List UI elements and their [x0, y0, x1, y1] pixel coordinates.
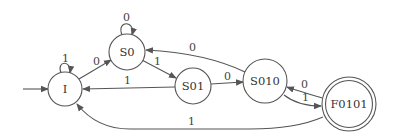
edge-F0101-I [77, 104, 323, 129]
state-label-S010: S010 [250, 74, 280, 88]
edge-S01-I [83, 87, 175, 89]
state-diagram: 1 0 0 1 1 0 0 0 1 1 I S0 S01 S010 F010 [0, 0, 393, 140]
edge-label-F0101-S010: 0 [301, 78, 308, 91]
state-F0101-accepting: F0101 [322, 77, 376, 131]
state-S010: S010 [243, 59, 287, 103]
edge-label-S0-S0: 0 [123, 11, 130, 24]
state-label-I: I [63, 82, 68, 96]
state-S0: S0 [109, 34, 145, 70]
edge-S0-S0 [121, 24, 133, 35]
edge-label-S010-F0101: 1 [302, 91, 309, 104]
state-label-S0: S0 [119, 45, 134, 59]
state-label-S01: S01 [182, 79, 205, 93]
edge-label-S01-I: 1 [124, 74, 131, 87]
edge-label-S01-S010: 0 [224, 70, 231, 83]
state-S01: S01 [175, 68, 211, 104]
state-I: I [48, 72, 82, 106]
edge-label-F0101-I: 1 [188, 115, 195, 128]
edge-label-S0-S01: 1 [154, 55, 161, 68]
edge-label-I-I: 1 [62, 52, 69, 65]
edge-label-S010-S0: 0 [189, 41, 196, 54]
edge-label-I-S0: 0 [93, 55, 100, 68]
state-label-F0101: F0101 [330, 97, 367, 111]
